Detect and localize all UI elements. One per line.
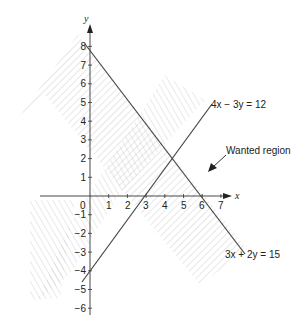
svg-text:2: 2: [80, 153, 86, 164]
svg-text:1: 1: [80, 172, 86, 183]
svg-text:−1: −1: [75, 209, 87, 220]
svg-text:5: 5: [80, 97, 86, 108]
svg-text:7: 7: [80, 60, 86, 71]
svg-text:5: 5: [181, 200, 187, 211]
x-arrow-icon: [223, 193, 232, 199]
svg-text:6: 6: [80, 78, 86, 89]
y-arrow-icon: [87, 24, 93, 33]
svg-text:−3: −3: [75, 247, 87, 258]
y-axis-label: y: [83, 13, 89, 24]
svg-text:7: 7: [218, 200, 224, 211]
equation-label-1: 4x − 3y = 12: [211, 99, 266, 110]
svg-text:3: 3: [80, 134, 86, 145]
svg-text:−4: −4: [75, 265, 87, 276]
svg-text:−5: −5: [75, 284, 87, 295]
svg-text:4: 4: [80, 116, 86, 127]
x-axis-label: x: [234, 190, 240, 201]
svg-text:1: 1: [106, 200, 112, 211]
svg-text:2: 2: [125, 200, 131, 211]
arrow-icon: [208, 155, 226, 172]
svg-text:3: 3: [143, 200, 149, 211]
svg-text:6: 6: [199, 200, 205, 211]
svg-text:4: 4: [162, 200, 168, 211]
inequality-diagram: 1 2 3 4 5 6 7 0 1 2 3 4 5 6 7 8 −1 −2 −3…: [0, 0, 302, 333]
svg-text:−2: −2: [75, 228, 87, 239]
svg-text:8: 8: [80, 41, 86, 52]
equation-label-2: 3x + 2y = 15: [225, 249, 280, 260]
svg-text:−6: −6: [75, 303, 87, 314]
wanted-region-label: Wanted region: [226, 145, 291, 156]
